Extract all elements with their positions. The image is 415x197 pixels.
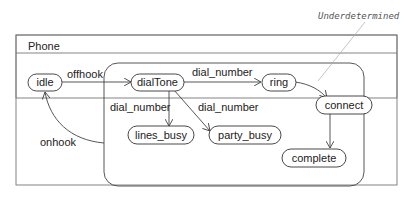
state-complete[interactable]: complete — [282, 149, 346, 167]
svg-text:complete: complete — [292, 152, 337, 164]
state-lines-busy[interactable]: lines_busy — [128, 126, 194, 144]
svg-text:connect: connect — [325, 99, 364, 111]
state-ring[interactable]: ring — [262, 74, 296, 91]
edge-ring-connect — [295, 82, 327, 98]
state-connect[interactable]: connect — [316, 96, 372, 114]
svg-text:idle: idle — [36, 76, 53, 88]
frame-title: Phone — [28, 40, 60, 52]
label-dial-number-lines-busy: dial_number — [110, 101, 171, 113]
state-idle[interactable]: idle — [28, 74, 62, 91]
state-party-busy[interactable]: party_busy — [209, 126, 281, 144]
label-dial-number-party-busy: dial_number — [198, 101, 259, 113]
svg-text:dialTone: dialTone — [137, 76, 178, 88]
state-diagram: Phone Underdetermined offhook dial_numbe… — [0, 0, 415, 197]
svg-text:ring: ring — [270, 76, 288, 88]
annotation-line — [318, 22, 365, 81]
label-dial-number-ring: dial_number — [192, 66, 253, 78]
label-offhook: offhook — [67, 68, 103, 80]
label-onhook: onhook — [40, 136, 77, 148]
annotation-underdetermined: Underdetermined — [318, 11, 400, 21]
state-dialtone[interactable]: dialTone — [131, 74, 184, 91]
svg-text:lines_busy: lines_busy — [135, 129, 187, 141]
svg-text:party_busy: party_busy — [218, 129, 272, 141]
